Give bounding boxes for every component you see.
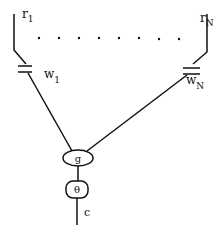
weight-label-w1: w1 — [44, 67, 60, 85]
input-branch-n: rN wN — [87, 11, 214, 151]
input-branch-1: r1 w1 — [14, 7, 72, 151]
sum-node-label: g — [75, 153, 82, 164]
input-line-r1 — [14, 14, 26, 64]
sum-node-g: g — [63, 150, 93, 166]
connection-wn-to-g — [87, 75, 187, 151]
weight-label-wn: wN — [186, 73, 204, 91]
output-label-c: c — [84, 206, 90, 219]
threshold-node-label: θ — [74, 184, 80, 195]
network-diagram: r1 w1 rN wN g θ c — [0, 0, 223, 234]
connection-w1-to-g — [28, 73, 72, 151]
input-label-rn: rN — [200, 11, 214, 28]
ellipsis-dots — [38, 37, 180, 40]
threshold-node-theta: θ — [66, 181, 88, 198]
input-label-r1: r1 — [22, 7, 33, 24]
